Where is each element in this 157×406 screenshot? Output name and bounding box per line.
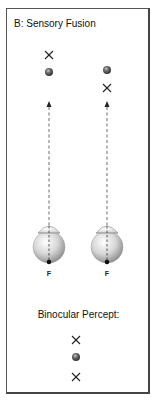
fovea-marker bbox=[47, 260, 52, 265]
fusion-diagram bbox=[0, 0, 157, 406]
left-eyeball-icon bbox=[33, 226, 65, 264]
cross-icon bbox=[72, 373, 80, 381]
cross-icon bbox=[72, 336, 80, 344]
binocular-percept bbox=[72, 336, 80, 381]
right-fovea-label: F bbox=[102, 270, 112, 277]
cross-icon bbox=[45, 51, 53, 59]
ball-icon bbox=[72, 353, 80, 361]
left-eye-targets bbox=[45, 51, 53, 76]
right-eye-targets bbox=[103, 66, 111, 92]
cross-icon bbox=[103, 84, 111, 92]
right-eyeball-icon bbox=[91, 226, 123, 264]
binocular-percept-label: Binocular Percept: bbox=[0, 309, 157, 320]
arrow-up-icon bbox=[105, 101, 110, 107]
ball-icon bbox=[103, 66, 111, 74]
fovea-marker bbox=[105, 260, 110, 265]
left-fovea-label: F bbox=[44, 270, 54, 277]
arrow-up-icon bbox=[47, 101, 52, 107]
ball-icon bbox=[45, 68, 53, 76]
